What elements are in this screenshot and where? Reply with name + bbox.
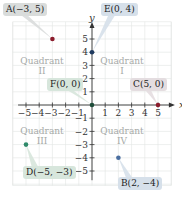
y-tick-label: 5 xyxy=(82,34,88,44)
quadrant-word: Quadrant xyxy=(97,126,147,136)
x-tick-label: −2 xyxy=(57,108,70,118)
point-b-marker xyxy=(116,156,121,161)
x-tick-label: 5 xyxy=(155,108,161,118)
quadrant-numeral: IV xyxy=(97,136,147,146)
x-arrow-icon xyxy=(169,103,175,108)
y-tick-label: −2 xyxy=(75,127,88,137)
y-tick-label: −5 xyxy=(75,166,89,176)
x-tick-label: 4 xyxy=(142,108,148,118)
point-label-b: B(2, −4) xyxy=(118,177,162,190)
quadrant-word: Quadrant xyxy=(97,56,147,66)
quadrant-label-ii: QuadrantII xyxy=(17,56,67,76)
point-a-marker xyxy=(50,37,55,42)
quadrant-label-iii: QuadrantIII xyxy=(17,126,67,146)
x-tick-label: 3 xyxy=(129,108,135,118)
point-f-marker xyxy=(90,103,95,108)
point-label-a: A(−3, 5) xyxy=(3,3,47,16)
x-tick-label: −4 xyxy=(31,108,45,118)
quadrant-numeral: III xyxy=(17,136,67,146)
x-tick-label: 1 xyxy=(102,108,108,118)
quadrant-label-iv: QuadrantIV xyxy=(97,126,147,146)
quadrant-word: Quadrant xyxy=(17,126,67,136)
y-tick-label: −3 xyxy=(75,140,89,150)
point-label-e: E(0, 4) xyxy=(101,3,138,16)
quadrant-word: Quadrant xyxy=(17,56,67,66)
y-tick-label: −1 xyxy=(75,113,88,123)
quadrant-label-i: QuadrantI xyxy=(97,56,147,76)
point-label-c: C(5, 0) xyxy=(130,78,167,91)
x-tick-label: −5 xyxy=(18,108,32,118)
quadrant-numeral: I xyxy=(97,66,147,76)
y-axis-label: y xyxy=(88,12,95,23)
point-e-marker xyxy=(90,50,95,55)
x-axis-label: x xyxy=(179,99,182,110)
y-tick-label: 3 xyxy=(82,61,88,71)
x-tick-label: −3 xyxy=(44,108,58,118)
y-tick-label: 2 xyxy=(82,74,88,84)
point-c-marker xyxy=(156,103,161,108)
y-tick-label: 1 xyxy=(82,87,88,97)
x-tick-label: 2 xyxy=(116,108,122,118)
point-label-f: F(0, 0) xyxy=(47,78,83,91)
quadrant-numeral: II xyxy=(17,66,67,76)
y-tick-label: −4 xyxy=(75,153,89,163)
y-tick-label: 4 xyxy=(82,47,88,57)
point-label-d: D(−5, −3) xyxy=(23,166,76,179)
